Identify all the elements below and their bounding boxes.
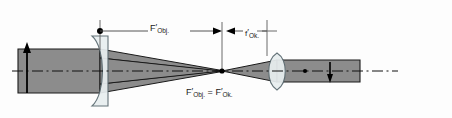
- label-fobj-base: F: [150, 23, 156, 33]
- label-eq-left-base: F: [186, 87, 192, 97]
- label-eq-equals: =: [205, 87, 215, 97]
- dim-fok-arrowhead-left: [226, 28, 235, 35]
- label-objective-focal-length: F′Obj.: [150, 24, 169, 33]
- label-fok-subscript: Ok.: [249, 32, 259, 39]
- exit-axis-point: [303, 69, 307, 73]
- label-fobj-subscript: Obj.: [157, 27, 169, 34]
- focus-point: [219, 68, 224, 73]
- dim-fobj-arrowhead-right: [213, 28, 222, 35]
- label-eyepiece-focal-length: f′Ok.: [245, 29, 259, 38]
- figure-canvas: F′Obj. f′Ok. F′Obj. = F′Ok.: [0, 0, 452, 118]
- object-arrow-head: [23, 42, 31, 53]
- label-eq-left-subscript: Obj.: [193, 91, 205, 98]
- label-eq-right-subscript: Ok.: [223, 91, 233, 98]
- optical-diagram-svg: [0, 0, 452, 118]
- label-common-focus: F′Obj. = F′Ok.: [186, 88, 233, 97]
